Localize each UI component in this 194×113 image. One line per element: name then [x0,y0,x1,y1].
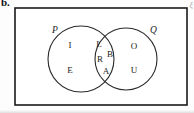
venn-diagram-figure: b. ξ P Q I E L B R A O U [0,0,194,113]
element-intersection-4: A [103,66,110,76]
set-label-p: P [51,25,58,35]
element-q-only-2: U [131,65,138,75]
venn-diagram-canvas: P Q I E L B R A O U [0,0,194,113]
element-intersection-2: B [107,49,113,59]
element-intersection-3: R [97,54,103,64]
element-p-only-1: I [69,40,72,50]
element-q-only-1: O [131,41,138,51]
element-p-only-2: E [67,65,73,75]
element-intersection-1: L [96,39,102,49]
set-label-q: Q [150,25,157,35]
